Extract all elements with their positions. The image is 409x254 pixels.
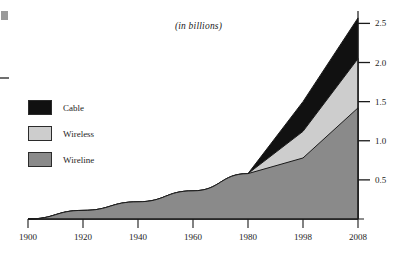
x-tick-label: 2008 [349,232,367,242]
legend-swatch-wireless [28,126,52,141]
legend-label: Cable [63,103,84,113]
x-tick-label: 1998 [294,232,312,242]
x-tick-label: 1980 [239,232,257,242]
legend-item-wireline: Wireline [28,149,94,170]
legend-label: Wireless [63,129,94,139]
y-tick-label: 1.5 [375,97,386,107]
y-tick-label: 1.0 [375,136,386,146]
chart-root: (in billions) CableWirelessWireline 1900… [0,0,409,254]
x-tick-label: 1960 [184,232,202,242]
x-tick-label: 1900 [19,232,37,242]
x-tick-label: 1940 [129,232,147,242]
legend-swatch-wireline [28,152,52,167]
chart-legend: CableWirelessWireline [28,97,94,175]
legend-label: Wireline [63,155,94,165]
y-tick-label: 0.5 [375,175,386,185]
legend-item-wireless: Wireless [28,123,94,144]
y-tick-label: 2.5 [375,18,386,28]
legend-swatch-cable [28,100,52,115]
legend-item-cable: Cable [28,97,94,118]
y-tick-label: 2.0 [375,58,386,68]
x-tick-label: 1920 [74,232,92,242]
